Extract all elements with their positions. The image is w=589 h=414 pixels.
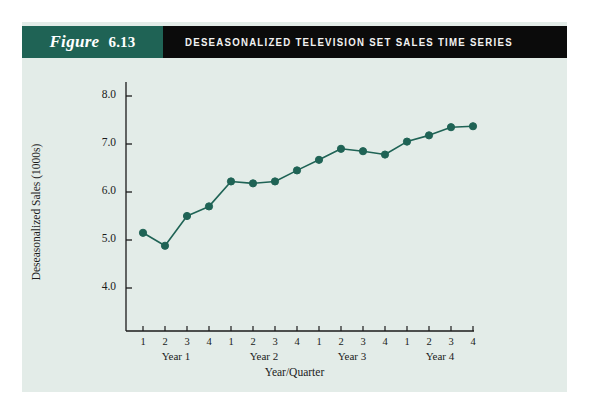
x-tick-label: 2 — [157, 336, 173, 347]
year-group-label: Year 2 — [229, 350, 299, 362]
x-tick-label: 1 — [399, 336, 415, 347]
x-tick-label: 3 — [443, 336, 459, 347]
x-tick-label: 4 — [465, 336, 481, 347]
y-tick-label: 5.0 — [82, 232, 116, 244]
x-axis-title: Year/Quarter — [0, 366, 589, 378]
x-tick-label: 3 — [267, 336, 283, 347]
x-tick-label: 4 — [377, 336, 393, 347]
figure-page: Figure 6.13 DESEASONALIZED TELEVISION SE… — [0, 0, 589, 414]
year-group-label: Year 3 — [317, 350, 387, 362]
x-tick-label: 1 — [223, 336, 239, 347]
y-tick-label: 8.0 — [82, 88, 116, 100]
line-chart: Deseasonalized Sales (1000s) Year/Quarte… — [0, 0, 589, 414]
y-tick-label: 7.0 — [82, 136, 116, 148]
x-tick-label: 2 — [333, 336, 349, 347]
x-tick-label: 3 — [355, 336, 371, 347]
x-tick-label: 1 — [311, 336, 327, 347]
x-tick-label: 4 — [289, 336, 305, 347]
y-axis-title: Deseasonalized Sales (1000s) — [30, 132, 42, 292]
x-tick-label: 4 — [201, 336, 217, 347]
x-tick-label: 1 — [135, 336, 151, 347]
y-tick-label: 6.0 — [82, 184, 116, 196]
year-group-label: Year 1 — [141, 350, 211, 362]
y-tick-label: 4.0 — [82, 280, 116, 292]
x-tick-label: 2 — [245, 336, 261, 347]
x-tick-label: 3 — [179, 336, 195, 347]
x-tick-label: 2 — [421, 336, 437, 347]
year-group-label: Year 4 — [405, 350, 475, 362]
